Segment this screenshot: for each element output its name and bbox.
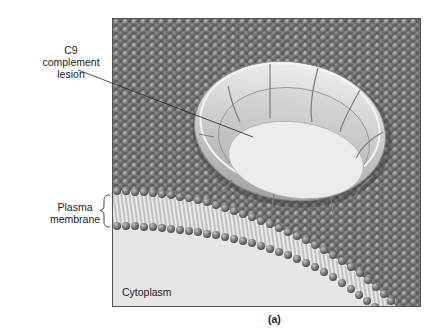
label-line: complement: [40, 56, 102, 68]
label-line: lesion: [40, 68, 102, 80]
c9-complement-lesion-label: C9 complement lesion: [40, 44, 102, 80]
label-line: Plasma: [44, 201, 106, 213]
panel-image: [113, 19, 420, 311]
plasma-membrane-label: Plasma membrane: [44, 201, 106, 225]
cytoplasm-label: Cytoplasm: [122, 286, 172, 298]
panel-label: (a): [268, 313, 281, 325]
label-line: C9: [40, 44, 102, 56]
label-line: membrane: [44, 213, 106, 225]
